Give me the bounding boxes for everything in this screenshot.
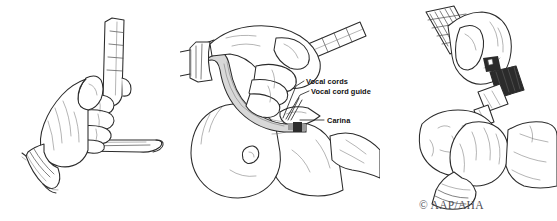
copyright-credit: © AAP/AHA (419, 199, 484, 211)
panel-3-artwork (380, 0, 557, 221)
intubation-figure: Vocal cords Vocal cord guide Carina © AA… (0, 0, 557, 221)
panel-1-artwork (0, 0, 186, 221)
callout-label-carina: Carina (327, 117, 350, 124)
panel-holding-laryngoscope (0, 0, 186, 221)
infant-shoulder-arm (506, 122, 557, 188)
laryngoscope-handle (103, 18, 131, 106)
gloved-hand (180, 26, 320, 118)
callout-label-vocal-cords: Vocal cords (306, 78, 348, 85)
panel-co2-detector (380, 0, 557, 221)
infant-torso (272, 123, 380, 196)
panel-2-artwork (180, 0, 380, 221)
infant-head (191, 104, 294, 198)
panel-inserting-tube (180, 0, 380, 221)
callout-label-vocal-cord-guide: Vocal cord guide (311, 88, 371, 95)
